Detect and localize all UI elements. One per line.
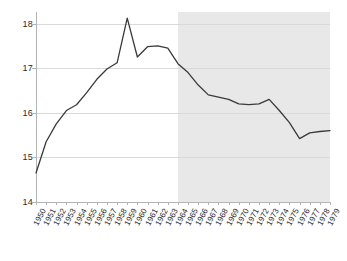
series-line-rate bbox=[36, 18, 330, 173]
series-line-layer bbox=[0, 0, 347, 261]
chart-container: 1415161718 19501951195219531954195519561… bbox=[0, 0, 347, 261]
